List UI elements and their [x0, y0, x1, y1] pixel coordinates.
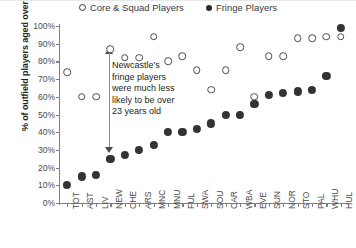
legend-label-fringe-players: Fringe Players [216, 2, 277, 13]
data-point[interactable] [322, 71, 330, 79]
y-tick-label: 30% [19, 145, 60, 155]
x-tick-mark [154, 203, 155, 207]
x-tick-mark [82, 203, 83, 207]
data-point[interactable] [63, 68, 71, 76]
x-tick-mark [269, 203, 270, 207]
data-point[interactable] [106, 155, 114, 163]
x-tick-label-mnu: MNU [172, 190, 182, 209]
x-tick-label-mnc: MNC [157, 190, 167, 209]
y-tick-label: 50% [19, 110, 60, 120]
data-point[interactable] [279, 52, 287, 60]
solid-circle-icon [206, 5, 212, 11]
data-point[interactable] [308, 35, 316, 43]
x-tick-label-sun: SUN [272, 191, 282, 209]
x-tick-label-whu: WHU [330, 189, 340, 209]
x-tick-mark [326, 203, 327, 207]
x-tick-label-tot: TOT [71, 192, 81, 209]
x-tick-mark [283, 203, 284, 207]
data-point[interactable] [63, 181, 71, 189]
data-point[interactable] [222, 110, 230, 118]
legend-item-core-squad-players[interactable]: Core & Squad Players [79, 2, 184, 13]
data-point[interactable] [207, 86, 215, 94]
data-point[interactable] [164, 128, 172, 136]
data-point[interactable] [78, 93, 86, 101]
x-tick-mark [96, 203, 97, 207]
data-point[interactable] [150, 140, 158, 148]
x-tick-mark [211, 203, 212, 207]
hollow-circle-icon [79, 4, 86, 11]
y-tick-label: 90% [19, 39, 60, 49]
y-tick-label: 70% [19, 74, 60, 84]
data-point[interactable] [92, 171, 100, 179]
x-tick-label-che: CHE [128, 191, 138, 209]
x-tick-label-ast: AST [85, 192, 95, 209]
annotation-line: were much less [112, 83, 208, 95]
data-point[interactable] [337, 24, 345, 32]
data-point[interactable] [150, 33, 158, 41]
x-tick-mark [197, 203, 198, 207]
x-tick-label-ars: ARS [143, 192, 153, 209]
data-point[interactable] [265, 91, 273, 99]
data-point[interactable] [178, 128, 186, 136]
x-tick-mark [67, 203, 68, 207]
y-tick-label: 60% [19, 92, 60, 102]
x-tick-mark [125, 203, 126, 207]
y-tick-label: 10% [19, 180, 60, 190]
x-tick-label-pal: PAL [316, 194, 326, 209]
data-point[interactable] [193, 125, 201, 133]
x-tick-mark [341, 203, 342, 207]
x-tick-label-new: NEW [114, 189, 124, 209]
data-point[interactable] [121, 54, 129, 62]
annotation-line: likely to be over [112, 95, 208, 107]
data-point[interactable] [222, 66, 230, 74]
x-tick-label-hul: HUL [344, 192, 354, 209]
x-tick-label-swa: SWA [200, 190, 210, 209]
x-tick-mark [168, 203, 169, 207]
x-tick-mark [254, 203, 255, 207]
chart-container: Core & Squad Players Fringe Players % of… [0, 0, 356, 248]
y-tick-label: 20% [19, 163, 60, 173]
data-point[interactable] [207, 119, 215, 127]
x-tick-mark [298, 203, 299, 207]
data-point[interactable] [92, 93, 100, 101]
legend-label-core-squad-players: Core & Squad Players [90, 2, 184, 13]
data-point[interactable] [308, 86, 316, 94]
y-tick-label: 0% [19, 198, 60, 208]
legend-item-fringe-players[interactable]: Fringe Players [206, 2, 277, 13]
x-tick-mark [110, 203, 111, 207]
data-point[interactable] [337, 33, 345, 41]
x-tick-mark [226, 203, 227, 207]
annotation-line: 23 years old [112, 106, 208, 118]
data-point[interactable] [135, 54, 143, 62]
data-point[interactable] [294, 35, 302, 43]
x-tick-label-sou: SOU [215, 191, 225, 209]
data-point[interactable] [265, 52, 273, 60]
data-point[interactable] [179, 52, 187, 60]
x-tick-mark [182, 203, 183, 207]
data-point[interactable] [236, 43, 244, 51]
y-tick-label: 80% [19, 56, 60, 66]
data-point[interactable] [121, 151, 129, 159]
x-tick-label-sto: STO [301, 192, 311, 209]
data-point[interactable] [279, 89, 287, 97]
data-point[interactable] [107, 45, 115, 53]
x-tick-label-liv: LIV [100, 196, 110, 209]
arrow-head-down-icon [105, 147, 113, 153]
x-tick-mark [240, 203, 241, 207]
x-tick-label-ful: FUL [186, 193, 196, 209]
x-tick-label-eve: EVE [258, 192, 268, 209]
y-tick-label: 100% [19, 21, 60, 31]
data-point[interactable] [323, 33, 331, 41]
x-tick-label-car: CAR [229, 191, 239, 209]
data-point[interactable] [294, 87, 302, 95]
x-tick-label-wba: WBA [244, 190, 254, 209]
data-point[interactable] [78, 172, 86, 180]
arrow-shaft [109, 53, 110, 148]
y-tick-label: 40% [19, 127, 60, 137]
data-point[interactable] [250, 100, 258, 108]
data-point[interactable] [135, 146, 143, 154]
data-point[interactable] [164, 58, 172, 66]
data-point[interactable] [236, 110, 244, 118]
top-divider [0, 0, 356, 1]
data-point[interactable] [193, 66, 201, 74]
